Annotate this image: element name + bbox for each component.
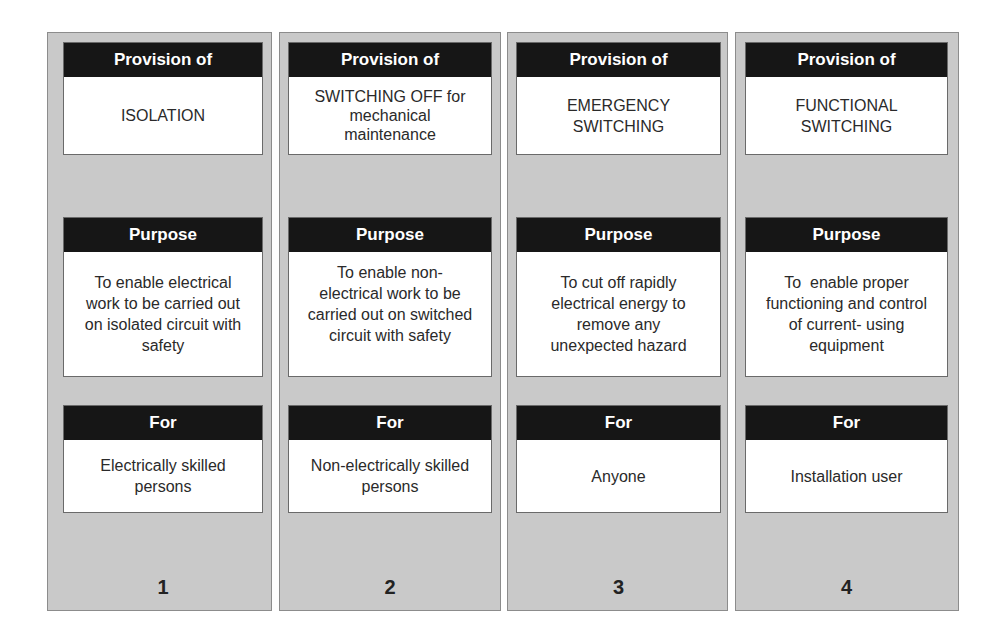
provision-value: SWITCHING OFF for mechanical maintenance [289,77,491,154]
for-value: Installation user [746,440,947,512]
for-header: For [517,406,720,440]
purpose-header: Purpose [517,218,720,252]
for-card: For Non-electrically skilled persons [288,405,492,513]
for-card: For Anyone [516,405,721,513]
provision-card: Provision of SWITCHING OFF for mechanica… [288,42,492,155]
purpose-card: Purpose To enable non- electrical work t… [288,217,492,377]
column-isolation: Provision of ISOLATION Purpose To enable… [47,32,272,611]
column-emergency-switching: Provision of EMERGENCY SWITCHING Purpose… [507,32,728,611]
provision-card: Provision of FUNCTIONAL SWITCHING [745,42,948,155]
provision-value: EMERGENCY SWITCHING [517,77,720,154]
provision-card: Provision of ISOLATION [63,42,263,155]
for-value: Non-electrically skilled persons [289,440,491,512]
provision-value: ISOLATION [64,77,262,154]
for-card: For Installation user [745,405,948,513]
purpose-value: To enable non- electrical work to be car… [289,252,491,376]
purpose-value: To cut off rapidly electrical energy to … [517,252,720,376]
for-value: Anyone [517,440,720,512]
for-header: For [289,406,491,440]
purpose-header: Purpose [64,218,262,252]
provision-header: Provision of [746,43,947,77]
column-number: 4 [745,576,948,599]
purpose-header: Purpose [289,218,491,252]
provision-header: Provision of [517,43,720,77]
for-card: For Electrically skilled persons [63,405,263,513]
column-number: 1 [63,576,263,599]
for-header: For [64,406,262,440]
purpose-value: To enable proper functioning and control… [746,252,947,376]
for-header: For [746,406,947,440]
provision-header: Provision of [289,43,491,77]
column-functional-switching: Provision of FUNCTIONAL SWITCHING Purpos… [735,32,959,611]
purpose-value: To enable electrical work to be carried … [64,252,262,376]
for-value: Electrically skilled persons [64,440,262,512]
purpose-card: Purpose To enable proper functioning and… [745,217,948,377]
column-switching-off: Provision of SWITCHING OFF for mechanica… [279,32,501,611]
column-number: 2 [288,576,492,599]
provision-header: Provision of [64,43,262,77]
purpose-card: Purpose To cut off rapidly electrical en… [516,217,721,377]
provision-card: Provision of EMERGENCY SWITCHING [516,42,721,155]
purpose-card: Purpose To enable electrical work to be … [63,217,263,377]
purpose-header: Purpose [746,218,947,252]
column-number: 3 [516,576,721,599]
provision-value: FUNCTIONAL SWITCHING [746,77,947,154]
